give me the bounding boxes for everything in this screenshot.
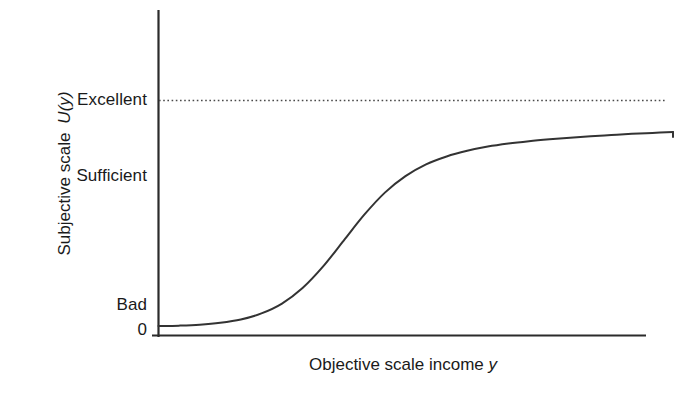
x-axis-title-text: Objective scale income [309, 355, 484, 374]
utility-curve-line [159, 132, 674, 326]
chart-plot-area [0, 0, 693, 393]
y-tick-label-excellent: Excellent [77, 91, 147, 108]
y-tick-label-zero: 0 [137, 321, 147, 338]
y-tick-label-bad: Bad [116, 296, 147, 313]
y-tick-label-sufficient: Sufficient [76, 167, 147, 184]
x-axis-title: Objective scale income y [158, 356, 648, 373]
y-axis-title-text: Subjective scale [55, 133, 74, 256]
x-axis-title-symbol: y [489, 355, 498, 374]
y-axis-title-symbol: U(y) [55, 92, 74, 124]
utility-function-figure: Excellent Sufficient Bad 0 Subjective sc… [0, 0, 693, 393]
y-axis-title: Subjective scaleU(y) [56, 24, 73, 324]
